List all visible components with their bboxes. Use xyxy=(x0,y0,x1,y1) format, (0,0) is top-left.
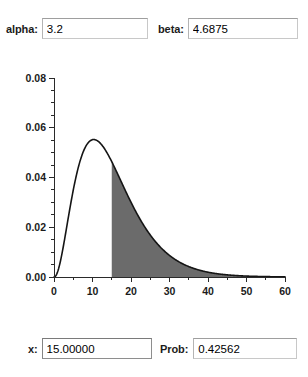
results-row: x: Prob: xyxy=(0,338,308,364)
svg-text:10: 10 xyxy=(87,285,99,297)
x-field-group: x: xyxy=(28,338,152,359)
beta-input[interactable] xyxy=(188,18,298,39)
alpha-label: alpha: xyxy=(6,23,38,35)
svg-text:0.08: 0.08 xyxy=(26,72,47,84)
density-curve xyxy=(54,140,285,277)
svg-text:20: 20 xyxy=(125,285,137,297)
svg-text:40: 40 xyxy=(202,285,214,297)
svg-text:0.00: 0.00 xyxy=(26,271,47,283)
prob-output[interactable] xyxy=(193,338,297,359)
prob-field-group: Prob: xyxy=(160,338,297,359)
svg-text:0.04: 0.04 xyxy=(26,171,47,183)
chart-tick-marks xyxy=(49,78,285,282)
svg-text:0.06: 0.06 xyxy=(26,121,47,133)
chart-axes xyxy=(54,78,285,277)
beta-field-group: beta: xyxy=(158,18,298,39)
x-label: x: xyxy=(28,343,38,355)
distribution-plot: 0.000.020.040.060.080102030405060 xyxy=(0,60,308,310)
svg-text:0: 0 xyxy=(51,285,57,297)
svg-text:30: 30 xyxy=(164,285,176,297)
beta-label: beta: xyxy=(158,23,184,35)
prob-label: Prob: xyxy=(160,343,188,355)
alpha-field-group: alpha: xyxy=(6,18,148,39)
gamma-density-chart: 0.000.020.040.060.080102030405060 xyxy=(0,60,308,310)
x-input[interactable] xyxy=(42,338,152,359)
parameter-inputs-row: alpha: beta: xyxy=(0,18,308,44)
alpha-input[interactable] xyxy=(42,18,148,39)
svg-text:0.02: 0.02 xyxy=(26,221,47,233)
shaded-tail-region xyxy=(112,162,285,277)
svg-text:60: 60 xyxy=(279,285,291,297)
svg-text:50: 50 xyxy=(241,285,253,297)
